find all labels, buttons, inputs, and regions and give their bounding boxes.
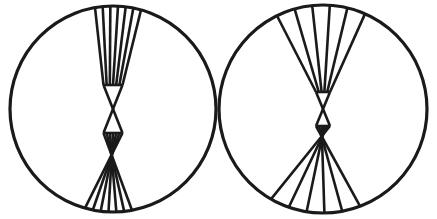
two-circles-illustration <box>0 0 437 219</box>
chord-line <box>110 6 111 85</box>
figure-canvas <box>0 0 437 219</box>
